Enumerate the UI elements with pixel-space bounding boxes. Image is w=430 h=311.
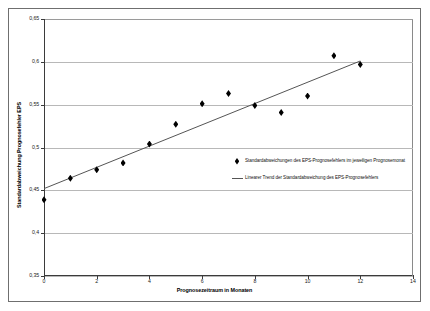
y-tick-label: 0,5 [32,145,39,150]
x-tick-label: 14 [410,279,416,284]
y-tick-mark [41,19,45,20]
legend-item-datapoints: Standardabweichungen des EPS-Prognosefeh… [229,157,424,165]
x-tick-label: 10 [305,279,311,284]
data-point [252,102,257,109]
y-tick-label: 0,35 [29,273,39,278]
data-point [279,109,284,116]
x-tick-label: 6 [201,279,204,284]
gridline [44,233,413,234]
plot-area: 0,350,40,450,50,550,60,65 02468101214 St… [44,19,413,276]
y-axis-title: Standardabweichung Prognosefehler EPS [16,102,22,208]
data-point [305,93,310,100]
gridline [44,19,413,20]
y-tick-mark [41,233,45,234]
y-tick-mark [41,148,45,149]
y-tick-mark [41,62,45,63]
gridline [44,276,413,277]
x-tick-label: 4 [148,279,151,284]
y-tick-label: 0,55 [29,102,39,107]
data-point [68,175,73,182]
diamond-marker-icon [229,157,245,165]
y-tick-label: 0,4 [32,231,39,236]
data-point [331,52,336,59]
trend-line-icon [229,174,245,179]
figure-frame: Standardabweichung Prognosefehler EPS 0,… [8,8,421,302]
data-point [121,159,126,166]
legend-item-trend: Linearer Trend der Standardabweichung de… [229,174,424,181]
x-axis-title: Prognosezeitraum in Monaten [9,287,420,293]
gridline [44,148,413,149]
y-tick-mark [41,105,45,106]
legend-label-datapoints: Standardabweichungen des EPS-Prognosefeh… [245,157,405,164]
x-tick-label: 2 [95,279,98,284]
chart-legend: Standardabweichungen des EPS-Prognosefeh… [229,157,424,190]
data-point [42,196,47,203]
x-tick-label: 12 [357,279,363,284]
data-point [226,90,231,97]
x-tick-label: 8 [253,279,256,284]
gridline [44,62,413,63]
y-tick-label: 0,6 [32,59,39,64]
y-tick-mark [41,190,45,191]
y-tick-label: 0,65 [29,16,39,21]
data-point [147,141,152,148]
y-tick-label: 0,45 [29,188,39,193]
gridline [44,190,413,191]
legend-label-trend: Linearer Trend der Standardabweichung de… [245,174,378,181]
data-point [173,121,178,128]
data-point [94,166,99,173]
x-tick-label: 0 [43,279,46,284]
data-point [200,100,205,107]
gridline [44,105,413,106]
